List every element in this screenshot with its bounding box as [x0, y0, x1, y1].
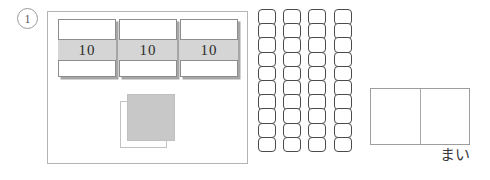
ten-card[interactable]: 10: [119, 19, 177, 77]
answer-box-divider: [420, 89, 421, 144]
ten-cards-row: 10 10 10: [58, 19, 238, 80]
worksheet-canvas: 1 10 10 10 ま: [0, 0, 490, 180]
ten-card[interactable]: 10: [180, 19, 238, 77]
unit-square-cell[interactable]: [258, 52, 276, 68]
problem-number-badge: 1: [17, 8, 38, 29]
unit-square-cell[interactable]: [283, 52, 301, 68]
unit-square-cell[interactable]: [334, 123, 352, 139]
ten-card-value: 10: [140, 43, 157, 58]
unit-square-cell[interactable]: [308, 52, 326, 68]
unit-square-cell[interactable]: [308, 137, 326, 153]
unit-square-cell[interactable]: [283, 137, 301, 153]
problem-number-label: 1: [25, 13, 31, 25]
answer-box[interactable]: [370, 88, 470, 145]
unit-square-cell[interactable]: [258, 123, 276, 139]
unit-square-cell[interactable]: [308, 123, 326, 139]
unit-square-cell[interactable]: [308, 37, 326, 53]
unit-square-cell[interactable]: [258, 37, 276, 53]
unit-strip[interactable]: [308, 9, 326, 151]
unit-square-cell[interactable]: [308, 108, 326, 124]
unit-square-cell[interactable]: [334, 108, 352, 124]
ten-card-value: 10: [79, 43, 96, 58]
unit-square-cell[interactable]: [283, 123, 301, 139]
unit-strip[interactable]: [283, 9, 301, 151]
unit-square-cell[interactable]: [258, 108, 276, 124]
unit-square-cell[interactable]: [283, 37, 301, 53]
ten-card-band: 10: [180, 39, 238, 61]
unit-square-cell[interactable]: [334, 137, 352, 153]
unit-square-cell[interactable]: [334, 37, 352, 53]
answer-unit-label: まい: [440, 148, 470, 163]
grey-square[interactable]: [127, 94, 175, 141]
unit-strip[interactable]: [258, 9, 276, 151]
unit-square-cell[interactable]: [283, 108, 301, 124]
ten-card-band: 10: [119, 39, 177, 61]
ten-card-value: 10: [201, 43, 218, 58]
unit-strip[interactable]: [334, 9, 352, 151]
unit-square-cell[interactable]: [334, 52, 352, 68]
ten-card[interactable]: 10: [58, 19, 116, 77]
ten-card-band: 10: [58, 39, 116, 61]
unit-square-cell[interactable]: [258, 137, 276, 153]
